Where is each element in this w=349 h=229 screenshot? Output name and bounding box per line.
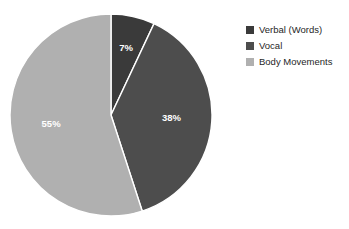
- legend-swatch-vocal-icon: [246, 42, 254, 50]
- legend-swatch-verbal-words-icon: [246, 26, 254, 34]
- legend-item-body-movements[interactable]: Body Movements: [246, 54, 347, 70]
- pie-chart-figure: 7%38%55% Verbal (Words) Vocal Body Movem…: [0, 0, 349, 229]
- chart-legend: Verbal (Words) Vocal Body Movements: [246, 22, 347, 70]
- legend-label-verbal-words: Verbal (Words): [259, 22, 322, 38]
- legend-label-body-movements: Body Movements: [259, 54, 332, 70]
- legend-item-verbal-words[interactable]: Verbal (Words): [246, 22, 347, 38]
- legend-label-vocal: Vocal: [259, 38, 282, 54]
- pie-slice-value-label: 38%: [162, 112, 182, 123]
- pie-slices-group: [10, 14, 212, 216]
- legend-swatch-body-movements-icon: [246, 58, 254, 66]
- legend-item-vocal[interactable]: Vocal: [246, 38, 347, 54]
- pie-chart-plot-area: 7%38%55%: [9, 12, 213, 218]
- pie-slice-value-label: 55%: [42, 118, 62, 129]
- pie-slice-value-label: 7%: [119, 42, 133, 53]
- pie-chart-svg: 7%38%55%: [9, 12, 213, 218]
